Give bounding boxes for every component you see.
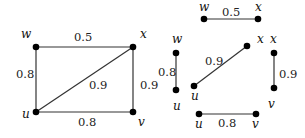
weight-u-v: 0.8 bbox=[218, 116, 236, 130]
node-u bbox=[33, 109, 40, 116]
edge-decomposition: w x 0.5 w u 0.8 u x 0.9 x v bbox=[158, 0, 297, 131]
weight-w-x: 0.5 bbox=[74, 30, 92, 44]
weight-w-u: 0.8 bbox=[158, 65, 176, 79]
node-label-v: v bbox=[268, 97, 275, 111]
edge-u-x bbox=[36, 47, 133, 112]
node-x bbox=[130, 44, 137, 51]
node-x bbox=[244, 43, 251, 50]
component-w-x: w x 0.5 bbox=[199, 0, 262, 22]
component-w-u: w u 0.8 bbox=[158, 32, 183, 113]
node-label-v: v bbox=[138, 115, 145, 129]
node-label-x: x bbox=[140, 27, 147, 41]
node-w bbox=[173, 50, 180, 57]
weighted-graph-diagram: w x u v 0.5 0.8 0.9 0.9 0.8 w x 0.5 w u … bbox=[0, 0, 305, 138]
weight-u-x: 0.9 bbox=[205, 54, 223, 68]
node-label-u: u bbox=[195, 117, 203, 131]
node-w bbox=[33, 44, 40, 51]
weight-x-v: 0.9 bbox=[140, 78, 158, 92]
component-x-v: x v 0.9 bbox=[268, 32, 297, 111]
component-u-x: u x 0.9 bbox=[191, 32, 264, 103]
node-w bbox=[201, 16, 208, 23]
node-label-v: v bbox=[252, 117, 259, 131]
weight-x-v: 0.9 bbox=[279, 67, 297, 81]
node-label-u: u bbox=[22, 107, 30, 121]
weight-u-x: 0.9 bbox=[89, 78, 107, 92]
node-label-x: x bbox=[257, 32, 264, 46]
node-label-x: x bbox=[255, 0, 262, 14]
node-label-w: w bbox=[21, 27, 32, 41]
node-label-x: x bbox=[270, 32, 277, 46]
node-label-w: w bbox=[172, 32, 183, 46]
component-u-v: u v 0.8 bbox=[195, 111, 259, 131]
node-v bbox=[130, 109, 137, 116]
weight-w-x: 0.5 bbox=[222, 5, 240, 19]
node-u bbox=[173, 87, 180, 94]
node-x bbox=[271, 50, 278, 57]
node-label-u: u bbox=[173, 99, 181, 113]
node-label-w: w bbox=[199, 0, 210, 14]
node-label-u: u bbox=[191, 89, 199, 103]
node-x bbox=[255, 16, 262, 23]
weight-u-v: 0.8 bbox=[78, 115, 96, 129]
main-graph: w x u v 0.5 0.8 0.9 0.9 0.8 bbox=[16, 27, 158, 129]
weight-w-u: 0.8 bbox=[16, 67, 34, 81]
node-v bbox=[271, 85, 278, 92]
